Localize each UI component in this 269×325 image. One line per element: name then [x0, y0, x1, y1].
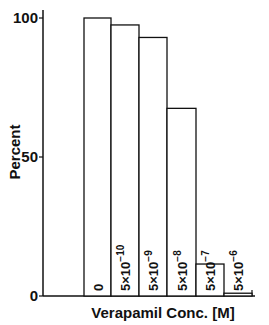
bar-5 — [224, 293, 252, 296]
bar-label-4: 5×10−7 — [200, 250, 218, 291]
bar-label-5: 5×10−6 — [228, 250, 246, 291]
ytick-100: 100 — [13, 9, 38, 26]
y-axis-title: Percent — [6, 124, 23, 179]
bar-label-0: 0 — [91, 284, 106, 291]
x-axis-title: Verapamil Conc. [M] — [91, 304, 234, 321]
bar-0 — [84, 18, 111, 296]
ytick-0: 0 — [30, 287, 38, 304]
bars — [84, 18, 252, 296]
bar-chart: 100 50 0 Percent 05×10−105×10−95×10−85×1… — [0, 0, 269, 325]
ytick-50: 50 — [21, 148, 38, 165]
